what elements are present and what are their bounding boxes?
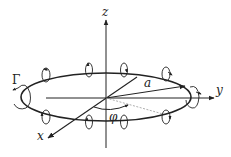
x-axis-label: x <box>37 129 44 143</box>
swirl-icon <box>86 63 93 77</box>
z-axis-label: z <box>101 5 109 19</box>
angle-label: φ <box>109 110 118 124</box>
radius-label: a <box>144 76 151 90</box>
circulation-label: Γ <box>12 73 20 87</box>
swirl-icon <box>121 115 128 129</box>
vortex-ring-diagram: z y x a φ Γ <box>0 0 231 157</box>
swirl-icon <box>162 110 170 124</box>
swirl-icon <box>42 110 50 124</box>
y-axis-label: y <box>215 83 223 97</box>
angle-arc <box>94 105 128 110</box>
swirl-icon <box>86 115 93 129</box>
swirl-icon <box>162 67 170 81</box>
